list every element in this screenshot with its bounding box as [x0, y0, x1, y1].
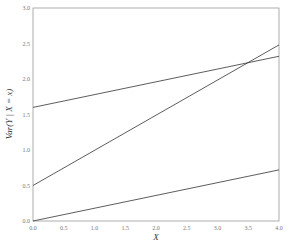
- y-tick-label: 1.5: [23, 112, 31, 118]
- y-tick-label: 3.0: [23, 5, 31, 11]
- x-axis-label: X: [152, 232, 159, 242]
- x-tick-label: 2.0: [152, 225, 160, 231]
- x-tick-label: 3.0: [214, 225, 222, 231]
- x-tick-label: 1.5: [122, 225, 130, 231]
- series-layer: [33, 45, 279, 221]
- x-tick-label: 0.5: [60, 225, 68, 231]
- series-3-line: [33, 170, 279, 221]
- y-tick-label: 2.0: [23, 76, 31, 82]
- x-tick-label: 0.0: [29, 225, 37, 231]
- line-chart: 0.00.51.01.52.02.53.03.54.0 0.00.51.01.5…: [0, 0, 290, 244]
- x-tick-label: 1.0: [91, 225, 99, 231]
- x-tick-label: 4.0: [275, 225, 283, 231]
- x-tick-label: 2.5: [183, 225, 191, 231]
- y-tick-label: 2.5: [23, 41, 31, 47]
- plot-frame: [33, 8, 279, 221]
- x-tick-label: 3.5: [245, 225, 253, 231]
- y-tick-label: 0.5: [23, 183, 31, 189]
- x-axis-ticks: 0.00.51.01.52.02.53.03.54.0: [29, 225, 283, 231]
- series-1-line: [33, 56, 279, 107]
- y-axis-ticks: 0.00.51.01.52.02.53.0: [23, 5, 31, 224]
- y-axis-label: Var(Y | X = x): [4, 89, 14, 140]
- y-tick-label: 1.0: [23, 147, 31, 153]
- series-2-line: [33, 45, 279, 186]
- y-tick-label: 0.0: [23, 218, 31, 224]
